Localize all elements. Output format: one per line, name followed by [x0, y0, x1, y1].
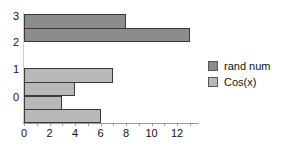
x-tick-mark [164, 123, 165, 126]
legend-label: Cos(x) [224, 76, 256, 88]
x-tick-label: 12 [167, 127, 187, 139]
legend-swatch-icon [208, 61, 218, 71]
x-tick-mark [139, 123, 140, 126]
bar-cos-x- [24, 109, 101, 123]
y-tick-label: 1 [9, 64, 19, 75]
x-tick-mark [37, 123, 38, 126]
x-tick-label: 4 [65, 127, 85, 139]
legend: rand num Cos(x) [208, 58, 270, 90]
x-tick-mark [75, 123, 76, 126]
x-tick-mark [190, 123, 191, 126]
x-tick-label: 0 [14, 127, 34, 139]
legend-item-rand-num: rand num [208, 58, 270, 74]
bar-cos-x- [24, 82, 75, 96]
bar-cos-x- [24, 96, 62, 110]
bar-cos-x- [24, 68, 113, 83]
x-tick-mark [101, 123, 102, 126]
x-tick-mark [113, 123, 114, 126]
y-tick-label: 3 [9, 11, 19, 22]
x-tick-mark [62, 123, 63, 126]
legend-swatch-icon [208, 77, 218, 87]
x-tick-mark [50, 123, 51, 126]
x-tick-label: 2 [40, 127, 60, 139]
bar-chart: 3 2 1 0 024681012 rand num Cos(x) [0, 0, 283, 150]
x-tick-mark [24, 123, 25, 126]
bar-rand-num [24, 28, 190, 42]
x-tick-mark [152, 123, 153, 126]
x-tick-label: 8 [116, 127, 136, 139]
x-tick-label: 6 [91, 127, 111, 139]
legend-label: rand num [224, 60, 270, 72]
x-tick-label: 10 [142, 127, 162, 139]
x-tick-mark [88, 123, 89, 126]
y-tick-label: 0 [9, 92, 19, 103]
x-tick-mark [126, 123, 127, 126]
y-tick-label: 2 [9, 37, 19, 48]
legend-item-cos: Cos(x) [208, 74, 270, 90]
x-tick-mark [177, 123, 178, 126]
bar-rand-num [24, 14, 126, 29]
